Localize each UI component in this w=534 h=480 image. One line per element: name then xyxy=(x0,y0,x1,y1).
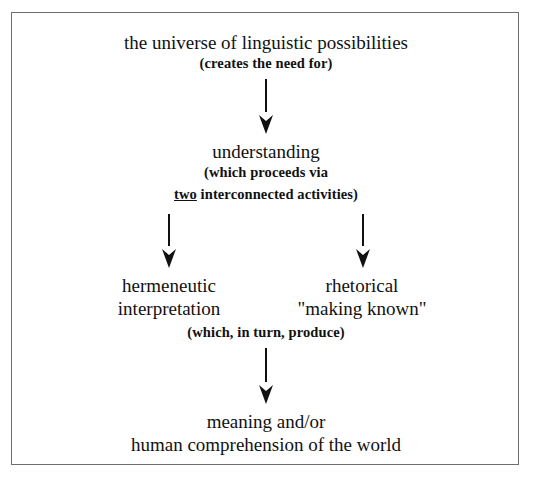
arrow-down-right-icon xyxy=(356,214,370,268)
arrow-down-icon xyxy=(259,79,273,134)
arrows-layer xyxy=(0,0,534,480)
arrow-down-left-icon xyxy=(162,214,176,268)
arrow-down-bottom-icon xyxy=(259,348,273,404)
